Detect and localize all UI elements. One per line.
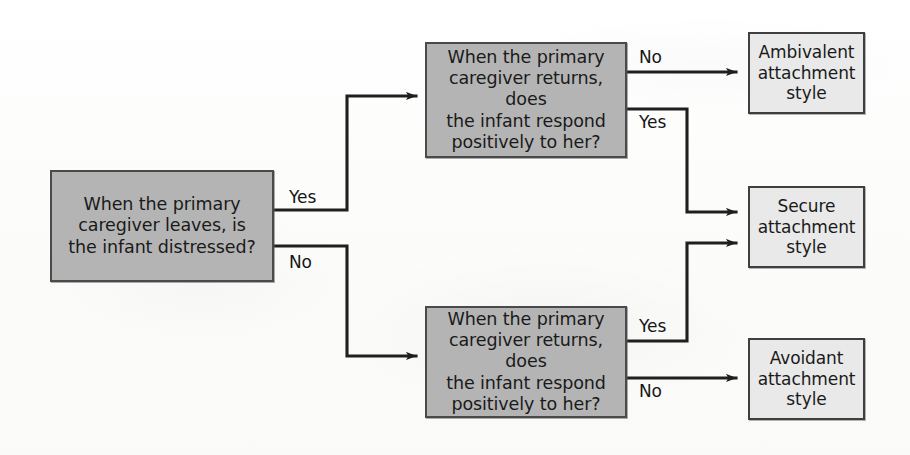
edge-label-top-no: No	[639, 47, 662, 67]
bottom-question-box[interactable]: When the primary caregiver returns, does…	[425, 306, 627, 418]
edge-label-top-yes: Yes	[639, 112, 666, 132]
start-question-box[interactable]: When the primary caregiver leaves, is th…	[50, 170, 274, 282]
edge-label-start-no: No	[289, 252, 312, 272]
avoidant-outcome-box[interactable]: Avoidant attachment style	[748, 338, 865, 420]
top-question-box[interactable]: When the primary caregiver returns, does…	[425, 42, 627, 158]
edge-label-bottom-yes: Yes	[639, 316, 666, 336]
secure-outcome-box[interactable]: Secure attachment style	[748, 186, 865, 268]
edge-label-bottom-no: No	[639, 381, 662, 401]
flowchart-canvas: When the primary caregiver leaves, is th…	[0, 0, 910, 455]
edge-label-start-yes: Yes	[289, 187, 316, 207]
ambivalent-outcome-box[interactable]: Ambivalent attachment style	[748, 32, 865, 114]
